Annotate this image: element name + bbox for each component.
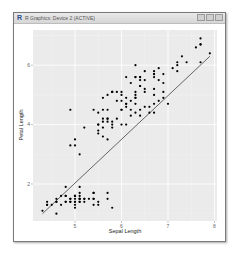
data-point [102, 126, 104, 128]
data-point [125, 76, 127, 78]
data-point [106, 109, 108, 111]
data-point [46, 204, 48, 206]
data-point [102, 97, 104, 99]
data-point [97, 124, 99, 126]
data-point [158, 100, 160, 102]
data-point [106, 118, 108, 120]
data-point [55, 213, 57, 215]
data-point [162, 82, 164, 84]
x-tick-label: 5 [74, 223, 77, 229]
data-point [97, 132, 99, 134]
data-point [153, 103, 155, 105]
data-point [130, 82, 132, 84]
data-point [83, 198, 85, 200]
data-point [176, 70, 178, 72]
data-point [93, 198, 95, 200]
data-point [102, 121, 104, 123]
data-point [93, 109, 95, 111]
data-point [79, 192, 81, 194]
data-point [97, 201, 99, 203]
data-point [158, 67, 160, 69]
data-point [134, 91, 136, 93]
data-point [106, 138, 108, 140]
data-point [167, 103, 169, 105]
data-point [199, 43, 201, 45]
data-point [69, 201, 71, 203]
data-point [69, 198, 71, 200]
data-point [120, 100, 122, 102]
y-tick-label: 2 [27, 181, 30, 187]
data-point [186, 61, 188, 63]
data-point [69, 109, 71, 111]
data-point [74, 201, 76, 203]
data-point [55, 198, 57, 200]
data-point [144, 91, 146, 93]
y-tick-label: 6 [27, 62, 30, 68]
data-point [125, 97, 127, 99]
plot-panel [33, 30, 217, 221]
data-point [102, 118, 104, 120]
data-point [55, 201, 57, 203]
data-point [125, 106, 127, 108]
data-point [139, 115, 141, 117]
data-point [158, 79, 160, 81]
data-point [93, 204, 95, 206]
data-point [116, 91, 118, 93]
y-axis-label: Petal Length [18, 110, 24, 141]
data-point [144, 70, 146, 72]
data-point [97, 112, 99, 114]
data-point [153, 76, 155, 78]
data-point [144, 88, 146, 90]
data-point [106, 121, 108, 123]
data-point [111, 124, 113, 126]
data-point [97, 204, 99, 206]
x-axis-label: Sepal Length [109, 228, 141, 234]
data-point [139, 109, 141, 111]
data-point [106, 192, 108, 194]
data-point [65, 186, 67, 188]
data-point [153, 73, 155, 75]
x-tick-label: 8 [213, 223, 216, 229]
data-point [79, 186, 81, 188]
data-point [74, 198, 76, 200]
data-point [88, 198, 90, 200]
data-point [46, 201, 48, 203]
data-point [134, 94, 136, 96]
data-point [106, 94, 108, 96]
data-point [111, 91, 113, 93]
data-point [79, 201, 81, 203]
data-point [176, 61, 178, 63]
data-point [139, 76, 141, 78]
data-point [172, 67, 174, 69]
y-tick-label: 4 [27, 121, 30, 127]
data-point [41, 210, 43, 212]
data-point [153, 70, 155, 72]
data-point [79, 198, 81, 200]
scatter-plot: 5678246 Sepal Length Petal Length [0, 0, 238, 258]
data-point [74, 207, 76, 209]
data-point [97, 129, 99, 131]
data-point [148, 106, 150, 108]
data-point [144, 106, 146, 108]
data-point [106, 198, 108, 200]
data-point [144, 79, 146, 81]
data-point [60, 204, 62, 206]
data-point [120, 124, 122, 126]
data-point [111, 126, 113, 128]
data-point [65, 201, 67, 203]
data-point [83, 126, 85, 128]
data-point [51, 204, 53, 206]
data-point [74, 144, 76, 146]
data-point [60, 195, 62, 197]
data-point [139, 79, 141, 81]
x-tick-label: 7 [167, 223, 170, 229]
data-point [130, 115, 132, 117]
data-point [125, 103, 127, 105]
data-point [134, 103, 136, 105]
data-point [134, 76, 136, 78]
data-point [199, 37, 201, 39]
data-point [111, 207, 113, 209]
data-point [134, 64, 136, 66]
data-point [148, 112, 150, 114]
data-point [83, 201, 85, 203]
